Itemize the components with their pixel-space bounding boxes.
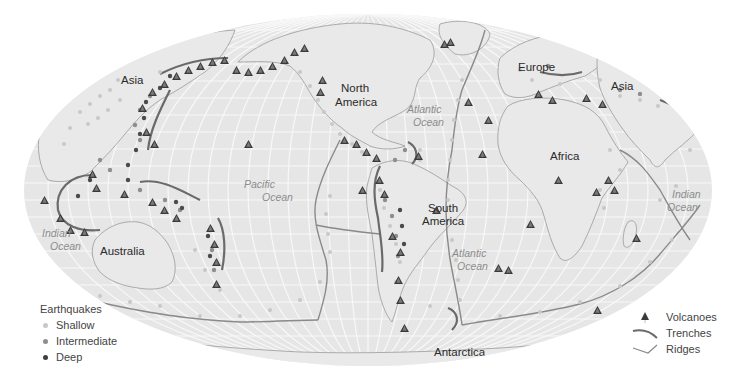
- earthquake-legend-title: Earthquakes: [40, 301, 117, 317]
- trench-line-icon: [632, 326, 658, 340]
- label-europe: Europe: [518, 61, 555, 73]
- label-south-america-line1: South: [428, 202, 458, 214]
- legend-label-deep: Deep: [56, 349, 82, 365]
- legend-label-trenches: Trenches: [666, 325, 711, 341]
- label-indian-west-line2: Ocean: [50, 240, 81, 252]
- label-australia: Australia: [100, 245, 145, 257]
- earthquake-legend: Earthquakes Shallow Intermediate Deep: [40, 301, 117, 365]
- legend-item-shallow: Shallow: [40, 317, 117, 333]
- label-atlantic-south-line2: Ocean: [457, 260, 488, 272]
- legend-item-trenches: Trenches: [632, 325, 717, 341]
- label-pacific-line2: Ocean: [262, 191, 293, 203]
- label-atlantic-south-line1: Atlantic: [451, 247, 487, 259]
- legend-item-volcanoes: Volcanoes: [632, 309, 717, 325]
- label-atlantic-north-line1: Atlantic: [406, 103, 442, 115]
- volcano-triangle-icon: [632, 310, 658, 324]
- deep-dot-icon: [43, 355, 48, 360]
- label-atlantic-north-line2: Ocean: [413, 116, 444, 128]
- legend-label-shallow: Shallow: [56, 317, 95, 333]
- label-asia-west: Asia: [121, 74, 144, 86]
- label-south-america-line2: America: [422, 215, 465, 227]
- intermediate-dot-icon: [43, 339, 48, 344]
- label-indian-east-line1: Indian: [672, 188, 701, 200]
- legend-label-volcanoes: Volcanoes: [666, 309, 717, 325]
- label-indian-east-line2: Ocean: [667, 201, 698, 213]
- label-indian-west-line1: Indian: [42, 227, 71, 239]
- legend-label-intermediate: Intermediate: [56, 333, 117, 349]
- features-legend: Volcanoes Trenches Ridges: [632, 309, 717, 357]
- shallow-dot-icon: [43, 323, 48, 328]
- legend-item-ridges: Ridges: [632, 341, 717, 357]
- ridge-line-icon: [632, 342, 658, 356]
- legend-label-ridges: Ridges: [666, 341, 700, 357]
- label-asia-east: Asia: [611, 80, 634, 92]
- label-north-america-line2: America: [335, 96, 378, 108]
- label-antarctica: Antarctica: [434, 346, 486, 358]
- label-north-america-line1: North: [341, 82, 369, 94]
- legend-item-deep: Deep: [40, 349, 117, 365]
- label-pacific-line1: Pacific: [244, 178, 276, 190]
- label-africa: Africa: [550, 150, 580, 162]
- legend-item-intermediate: Intermediate: [40, 333, 117, 349]
